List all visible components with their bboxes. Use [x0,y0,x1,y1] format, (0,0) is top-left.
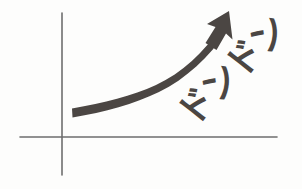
sketch-canvas: ド ン ド ン ドンドン Exponential growth arrow sk… [0,0,302,189]
sketch-svg: ド ン ド ン [0,0,302,189]
